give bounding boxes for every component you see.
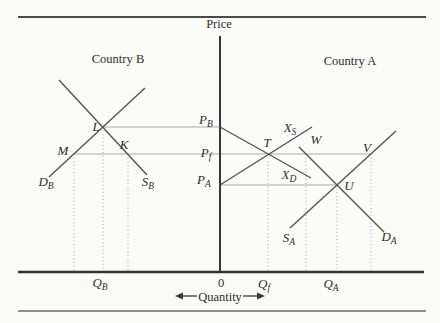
right-arrow-head <box>257 293 265 300</box>
point-w-label: W <box>311 132 323 147</box>
quantity-qf-label: Qf <box>258 276 271 293</box>
import-demand-label: XD <box>281 167 297 184</box>
point-m-label: M <box>57 143 70 158</box>
demand-b-label: DB <box>37 174 53 191</box>
sb-sub: B <box>148 181 154 191</box>
point-t-label: T <box>263 135 271 150</box>
supply-a-label: SA <box>283 230 296 247</box>
price-pa-label: PA <box>196 172 211 189</box>
trade-equilibrium-figure: Price Country B Country A 0 Quantity PB … <box>0 0 440 323</box>
export-supply-label: XS <box>283 120 297 137</box>
quantity-axis-label: Quantity <box>198 290 242 304</box>
quantity-qb-label: QB <box>92 275 107 292</box>
xd-sub: D <box>289 174 297 184</box>
db-main: D <box>37 174 48 189</box>
db-sub: B <box>48 181 54 191</box>
price-axis-label: Price <box>206 17 232 31</box>
price-pf-label: Pf <box>200 145 213 162</box>
point-l-label: L <box>91 119 99 134</box>
point-u-label: U <box>344 178 355 193</box>
pa-sub: A <box>204 179 211 189</box>
pf-main: P <box>200 145 209 160</box>
trade-diagram-canvas: Price Country B Country A 0 Quantity PB … <box>0 0 440 323</box>
pb-sub: B <box>207 119 213 129</box>
da-sub: A <box>390 236 397 246</box>
demand-curve-a <box>299 147 384 232</box>
qb-sub: B <box>102 282 108 292</box>
supply-b-label: SB <box>142 174 155 191</box>
qa-sub: A <box>332 283 339 293</box>
pb-main: P <box>198 112 207 127</box>
country-b-title: Country B <box>92 52 144 66</box>
country-a-title: Country A <box>324 54 376 68</box>
origin-label: 0 <box>218 276 224 290</box>
demand-a-label: DA <box>380 229 396 246</box>
sa-sub: A <box>288 237 295 247</box>
da-main: D <box>380 229 391 244</box>
qf-sub: f <box>267 283 271 293</box>
pf-sub: f <box>209 152 213 162</box>
right-arrow-icon <box>243 293 265 300</box>
pa-main: P <box>196 172 205 187</box>
left-arrow-icon <box>175 293 197 300</box>
quantity-qa-label: QA <box>323 276 338 293</box>
xs-sub: S <box>292 127 297 137</box>
point-k-label: K <box>119 137 130 152</box>
left-arrow-head <box>175 293 183 300</box>
price-pb-label: PB <box>198 112 213 129</box>
